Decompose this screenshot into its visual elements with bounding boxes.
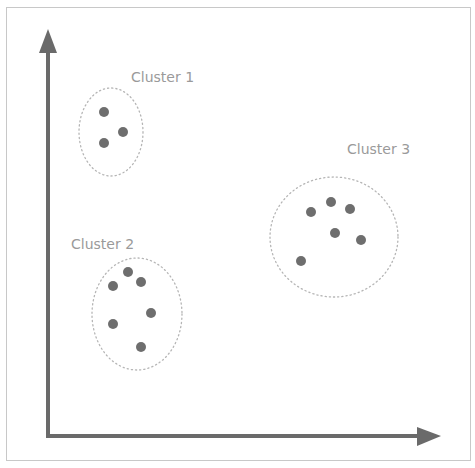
cluster-boundary-ellipse: [79, 88, 143, 176]
data-point: [345, 204, 355, 214]
x-axis-arrow-icon: [417, 427, 441, 446]
cluster-boundary-ellipse: [92, 258, 182, 370]
y-axis-arrow-icon: [39, 29, 57, 53]
data-point: [99, 107, 109, 117]
data-point: [136, 277, 146, 287]
data-point: [146, 308, 156, 318]
cluster-3: Cluster 3: [270, 141, 410, 297]
cluster-2: Cluster 2: [71, 236, 182, 370]
data-point: [108, 319, 118, 329]
cluster-diagram: Cluster 1Cluster 2Cluster 3: [0, 0, 475, 468]
data-point: [330, 228, 340, 238]
data-point: [99, 138, 109, 148]
data-point: [136, 342, 146, 352]
data-point: [306, 207, 316, 217]
data-point: [356, 235, 366, 245]
data-point: [326, 197, 336, 207]
clusters: Cluster 1Cluster 2Cluster 3: [71, 69, 410, 370]
cluster-label: Cluster 3: [347, 141, 410, 157]
cluster-1: Cluster 1: [79, 69, 194, 176]
data-point: [296, 256, 306, 266]
data-point: [118, 127, 128, 137]
data-point: [108, 281, 118, 291]
cluster-label: Cluster 2: [71, 236, 134, 252]
cluster-label: Cluster 1: [131, 69, 194, 85]
data-point: [123, 267, 133, 277]
